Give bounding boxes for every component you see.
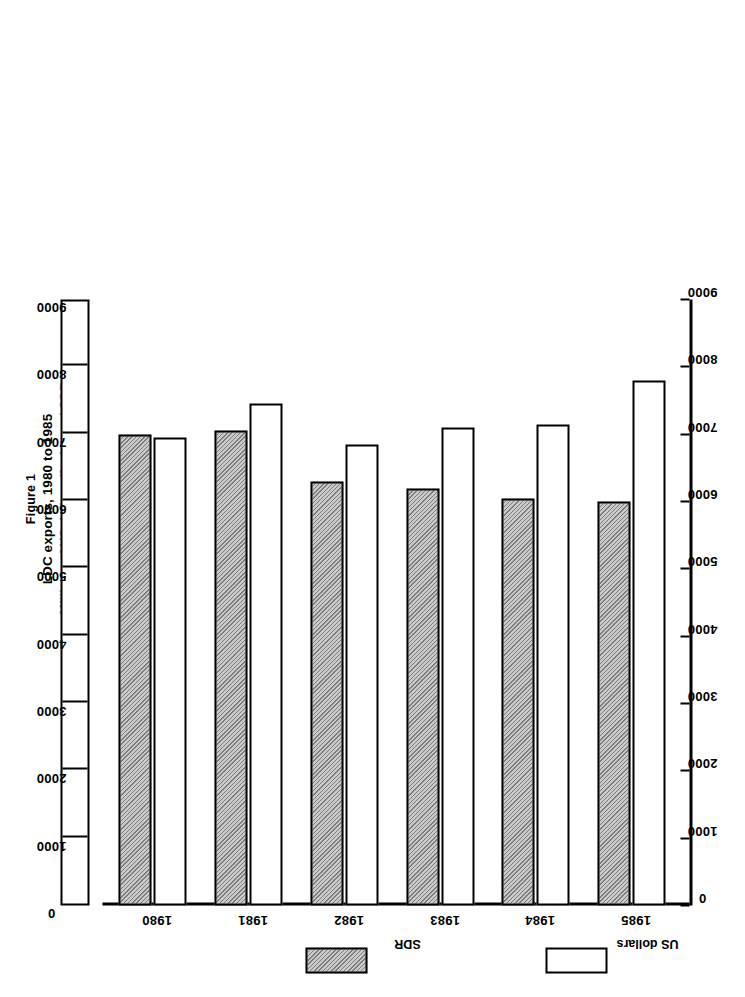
axis-tick-label-bottom: 6000 bbox=[678, 486, 726, 501]
category-label-1985: 1985 bbox=[613, 913, 659, 928]
bar-sdr-1984 bbox=[501, 498, 534, 905]
bar-usd-1982 bbox=[345, 444, 378, 905]
axis-tick-label-top: 8000 bbox=[27, 366, 75, 381]
bar-sdr-1985 bbox=[597, 501, 630, 905]
axis-tick bbox=[62, 835, 87, 837]
axis-tick-label-bottom: 0 bbox=[678, 890, 726, 905]
bar-sdr-1982 bbox=[310, 481, 343, 905]
bar-usd-1981 bbox=[249, 403, 282, 905]
category-label-1984: 1984 bbox=[517, 913, 563, 928]
axis-tick bbox=[62, 565, 87, 567]
category-label-1981: 1981 bbox=[229, 913, 275, 928]
axis-tick-label-top: 2000 bbox=[27, 770, 75, 785]
axis-tick-label-bottom: 1000 bbox=[678, 823, 726, 838]
axis-tick bbox=[62, 700, 87, 702]
axis-tick-label-bottom: 8000 bbox=[678, 351, 726, 366]
axis-tick-label-bottom: 4000 bbox=[678, 621, 726, 636]
axis-tick bbox=[62, 363, 87, 365]
axis-tick-label-top: 3000 bbox=[27, 703, 75, 718]
bar-usd-1983 bbox=[441, 427, 474, 905]
bar-sdr-1983 bbox=[406, 488, 439, 905]
axis-tick bbox=[62, 767, 87, 769]
axis-tick bbox=[62, 431, 87, 433]
axis-tick-label-top: 4000 bbox=[27, 636, 75, 651]
axis-tick-label-bottom: 3000 bbox=[678, 688, 726, 703]
figure-canvas: Figure 1 LDC exports, 1980 to 1985 Milli… bbox=[0, 0, 745, 997]
legend-usd-swatch bbox=[545, 947, 607, 973]
value-axis-top bbox=[60, 299, 89, 905]
legend-usd-label: US dollars bbox=[587, 936, 707, 950]
bar-usd-1980 bbox=[153, 437, 186, 905]
bar-usd-1984 bbox=[536, 424, 569, 905]
bar-usd-1985 bbox=[632, 380, 665, 905]
axis-tick bbox=[62, 498, 87, 500]
category-label-1983: 1983 bbox=[421, 913, 467, 928]
category-label-1980: 1980 bbox=[134, 913, 180, 928]
bar-sdr-1981 bbox=[214, 430, 247, 905]
value-axis-bottom bbox=[689, 299, 692, 905]
axis-tick-label-bottom: 5000 bbox=[678, 553, 726, 568]
legend-sdr-label: SDR bbox=[347, 936, 467, 950]
bar-sdr-1980 bbox=[118, 434, 151, 905]
axis-tick-label-top: 9000 bbox=[27, 299, 75, 314]
axis-tick-label-top: 6000 bbox=[27, 501, 75, 516]
axis-tick-label-top: 1000 bbox=[27, 838, 75, 853]
axis-tick-label-bottom: 7000 bbox=[678, 419, 726, 434]
category-label-1982: 1982 bbox=[325, 913, 371, 928]
plot-area: 0010001000200020003000300040004000500050… bbox=[108, 299, 683, 905]
axis-tick-label-bottom: 2000 bbox=[678, 755, 726, 770]
axis-tick-label-top: 5000 bbox=[27, 568, 75, 583]
axis-tick-label-top: 7000 bbox=[27, 434, 75, 449]
axis-tick-label-top: 0 bbox=[27, 905, 75, 920]
axis-tick-label-bottom: 9000 bbox=[678, 284, 726, 299]
axis-tick bbox=[62, 633, 87, 635]
legend-sdr-swatch bbox=[305, 947, 367, 973]
